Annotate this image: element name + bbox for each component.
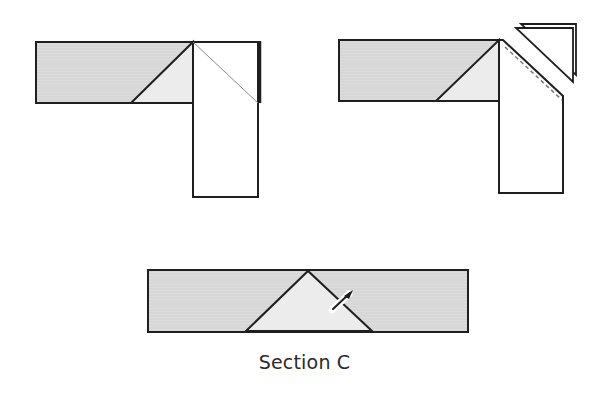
figure-2: [339, 24, 576, 193]
figure-3: [148, 270, 468, 332]
vertical-strip: [193, 42, 258, 197]
figure-1: [36, 41, 260, 197]
figure-caption: Section C: [0, 351, 609, 373]
diagram-canvas: [0, 0, 609, 397]
